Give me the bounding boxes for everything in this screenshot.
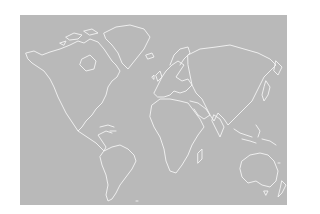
asia-coast — [188, 45, 276, 125]
africa-coast — [150, 99, 204, 173]
madagascar-coast — [198, 149, 202, 163]
world-coastlines — [20, 15, 287, 205]
greenland-coast — [104, 25, 150, 69]
north-america-coast — [26, 39, 120, 131]
tasmania-coast — [264, 191, 268, 195]
central-america-coast — [78, 131, 112, 151]
world-map — [20, 15, 287, 205]
south-america-coast — [100, 145, 136, 201]
arctic-islands-coast — [60, 29, 98, 45]
kamchatka-coast — [274, 61, 282, 75]
iceland-coast — [146, 53, 154, 59]
india-coast — [212, 115, 224, 137]
australia-coast — [240, 153, 278, 187]
southeast-asia-islands-coast — [234, 125, 276, 145]
japan-coast — [262, 81, 270, 101]
new-zealand-coast — [278, 181, 286, 197]
hudson-bay-coast — [80, 55, 96, 71]
caribbean-coast — [100, 125, 116, 131]
small-islands-coast — [136, 163, 280, 201]
